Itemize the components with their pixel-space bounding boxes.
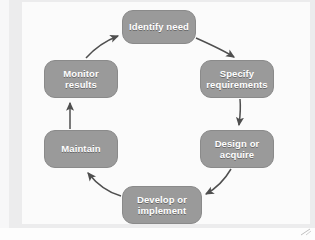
node-develop-or-implement-label: Develop or implement: [137, 194, 187, 217]
node-design-or-acquire[interactable]: Design or acquire: [200, 130, 274, 168]
diagram-canvas: Identify need Specify requirements Desig…: [0, 0, 315, 240]
edge-specify-to-design: [239, 99, 240, 125]
edge-identify-to-specify: [196, 38, 234, 57]
node-identify-need[interactable]: Identify need: [122, 10, 196, 44]
node-specify-requirements-label: Specify requirements: [206, 68, 267, 91]
edge-develop-to-maintain: [88, 173, 121, 196]
node-identify-need-label: Identify need: [129, 21, 189, 33]
node-monitor-results[interactable]: Monitor results: [44, 60, 118, 98]
node-specify-requirements[interactable]: Specify requirements: [200, 60, 274, 98]
node-monitor-results-label: Monitor results: [63, 68, 99, 91]
edge-design-to-develop: [206, 169, 231, 194]
node-maintain[interactable]: Maintain: [44, 130, 118, 168]
edge-monitor-to-identify: [86, 36, 118, 58]
scan-corner-mark-icon: [300, 228, 312, 236]
node-design-or-acquire-label: Design or acquire: [215, 138, 260, 161]
node-develop-or-implement[interactable]: Develop or implement: [122, 186, 202, 224]
node-maintain-label: Maintain: [61, 143, 100, 155]
